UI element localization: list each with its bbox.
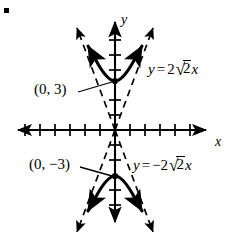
equation-label-negative: y=−2√2x: [133, 156, 192, 173]
leader-line-lower: [80, 167, 112, 176]
eq-bottom-radicand: 2: [176, 156, 185, 172]
eq-bottom-variable: x: [185, 157, 192, 173]
axis-x: [18, 124, 206, 136]
equation-label-positive: y=2√2x: [148, 60, 198, 77]
label-vertex-upper: (0, 3): [34, 82, 67, 97]
y-axis-label: y: [121, 13, 127, 27]
hyperbola-figure: (0, 3) (0, −3) y=2√2x y=−2√2x y x: [0, 0, 229, 232]
eq-top-radicand: 2: [183, 60, 192, 76]
eq-top-variable: x: [191, 61, 198, 77]
vertex-point-lower: [112, 173, 118, 179]
x-axis-label: x: [215, 135, 221, 149]
vertex-point-upper: [112, 78, 118, 84]
eq-top-coefficient: 2: [167, 61, 175, 77]
eq-top-lhs: y: [148, 61, 155, 77]
eq-top-radical-group: √2: [175, 60, 192, 77]
label-vertex-lower: (0, −3): [29, 157, 70, 172]
leader-line-upper: [78, 82, 112, 92]
eq-bottom-equals: =: [142, 157, 150, 173]
eq-bottom-coefficient: −2: [152, 157, 168, 173]
eq-bottom-lhs: y: [133, 157, 140, 173]
graph-canvas: [0, 0, 229, 232]
bullet-marker: [4, 8, 9, 13]
axis-y: [109, 22, 121, 222]
eq-top-equals: =: [157, 61, 165, 77]
eq-bottom-radical-group: √2: [168, 156, 185, 173]
